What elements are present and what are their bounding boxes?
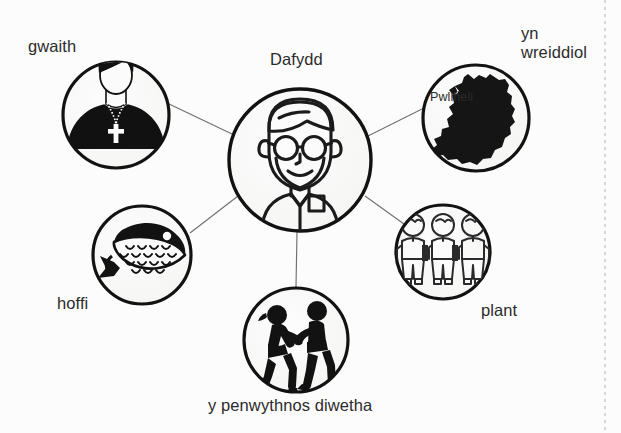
label-y-penwythnos-diwetha: y penwythnos diwetha <box>208 396 372 415</box>
label-plant: plant <box>481 301 517 320</box>
node-gwaith[interactable] <box>63 49 169 168</box>
node-yn-wreiddiol[interactable] <box>423 65 529 171</box>
label-hoffi: hoffi <box>57 294 88 313</box>
label-yn-wreiddiol-line-1: yn <box>521 24 587 43</box>
node-dafydd[interactable] <box>229 89 371 232</box>
label-pwllheli: Pwllheli <box>430 88 473 107</box>
connector-center-gwaith <box>167 103 232 134</box>
node-hoffi[interactable] <box>93 206 191 304</box>
node-y-penwythnos-diwetha[interactable] <box>244 288 348 397</box>
worksheet-canvas: gwaith Dafydd yn wreiddiol Pwllheli hoff… <box>0 0 621 433</box>
label-yn-wreiddiol: yn wreiddiol <box>521 24 587 62</box>
connector-center-plant <box>365 196 404 224</box>
label-gwaith: gwaith <box>28 37 76 56</box>
connector-center-hoffi <box>190 196 238 233</box>
connector-center-yn-wreiddiol <box>368 108 424 136</box>
node-plant[interactable] <box>396 205 490 299</box>
connector-center-y-penwythnos-diwetha <box>296 232 297 287</box>
label-dafydd: Dafydd <box>270 50 323 69</box>
label-yn-wreiddiol-line-2: wreiddiol <box>521 43 587 62</box>
